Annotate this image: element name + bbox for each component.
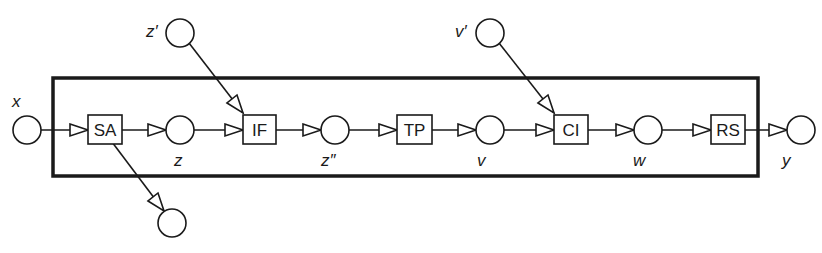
arrowhead-icon [536,124,554,136]
place-w [634,116,662,144]
transition-rs-label: RS [716,121,740,140]
transition-sa-label: SA [94,121,117,140]
place-x [13,116,41,144]
place-z-prime [166,19,194,47]
transition-if: IF [243,115,276,144]
arrowhead-icon [769,124,787,136]
label-z-prime: z′ [145,22,159,41]
transition-sa: SA [88,115,122,144]
label-x: x [11,92,21,111]
arrowhead-icon [379,124,397,136]
arrowhead-icon [148,124,166,136]
arrowhead-icon [70,124,88,136]
label-v: v [477,151,487,170]
transition-ci-label: CI [563,121,580,140]
place-v-prime [476,19,504,47]
place-z [166,116,194,144]
arrowhead-icon [225,124,243,136]
variable-labels: x z z′ z″ v v′ w y [11,22,792,170]
label-z: z [173,151,183,170]
label-v-prime: v′ [455,22,468,41]
transition-tp: TP [397,115,432,144]
place-z-double-prime [321,116,349,144]
place-output [158,209,186,237]
label-z-double-prime: z″ [320,151,337,170]
arrowhead-icon [458,124,476,136]
arrowhead-icon [616,124,634,136]
pipeline-diagram: SA IF TP CI RS x z z′ z″ v v′ w y [0,0,822,253]
label-w: w [633,151,647,170]
transition-ci: CI [554,115,588,144]
place-y [787,116,815,144]
arrowhead-icon [303,124,321,136]
transition-if-label: IF [252,121,267,140]
transition-tp-label: TP [404,121,426,140]
label-y: y [781,151,792,170]
arrowhead-icon [148,193,164,211]
transition-rs: RS [711,115,745,144]
arrowhead-icon [538,95,554,113]
arrowhead-icon [227,95,243,113]
place-v [476,116,504,144]
arrowhead-icon [693,124,711,136]
